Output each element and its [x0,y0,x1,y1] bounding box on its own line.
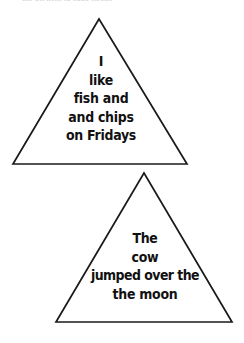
triangle-two-line-2: cow [78,248,212,267]
triangle-one-line-3: fish and [36,89,166,108]
triangle-two-line-3: jumped over the [78,266,212,285]
triangle-one-line-4: and chips [36,108,166,127]
triangle-one-line-5: on Fridays [36,126,166,145]
triangle-two-text-block: The cow jumped over the the moon [78,229,212,303]
triangle-one-text-block: I like fish and and chips on Fridays [36,52,166,145]
cut-off-header-text: the bit next to each stroke [22,0,222,1]
triangle-one-line-2: like [36,71,166,90]
triangle-two-line-4: the moon [78,285,212,304]
triangle-two-line-1: The [78,229,212,248]
triangle-one-line-1: I [36,52,166,71]
